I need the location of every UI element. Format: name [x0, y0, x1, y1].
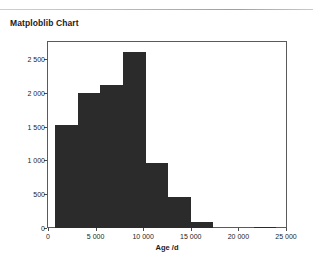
histogram-bar	[146, 163, 169, 228]
histogram-bar	[254, 227, 277, 228]
x-axis-tick-label: 10 000	[132, 233, 153, 240]
x-axis-tick	[286, 228, 287, 231]
y-axis-tick-label: 500	[33, 191, 45, 198]
histogram-bar	[168, 197, 191, 228]
histogram-bar	[100, 85, 123, 228]
plot-area: 05 00010 00015 00020 00025 000 05001 000…	[0, 0, 313, 256]
y-axis-tick-label: 2 000	[27, 89, 45, 96]
x-axis-tick	[143, 228, 144, 231]
x-axis-tick-label: 5 000	[87, 233, 105, 240]
matplotlib-chart-card: Matploblib Chart 05 00010 00015 00020 00…	[0, 0, 313, 256]
x-axis-tick	[191, 228, 192, 231]
histogram-bar	[123, 52, 146, 228]
x-axis-tick-label: 0	[46, 233, 50, 240]
y-axis-tick-label: 1 000	[27, 157, 45, 164]
y-axis-tick-label: 1 500	[27, 123, 45, 130]
y-axis-tick-label: 0	[41, 225, 45, 232]
y-axis-tick-label: 2 500	[27, 55, 45, 62]
x-axis-tick-label: 25 000	[275, 233, 296, 240]
histogram-bar	[191, 222, 214, 228]
histogram-bar	[55, 125, 78, 228]
x-axis-tick-label: 15 000	[180, 233, 201, 240]
histogram-bars	[48, 42, 286, 228]
x-axis-tick-label: 20 000	[228, 233, 249, 240]
histogram-bar	[78, 93, 101, 228]
x-axis-tick	[48, 228, 49, 231]
x-axis-tick	[96, 228, 97, 231]
x-axis-label: Age /d	[156, 243, 179, 252]
x-axis-tick	[238, 228, 239, 231]
